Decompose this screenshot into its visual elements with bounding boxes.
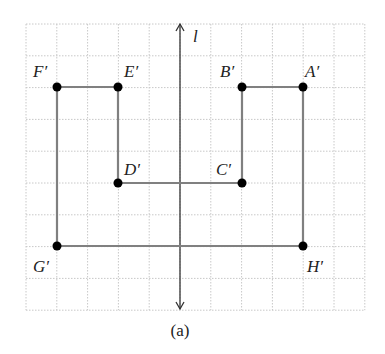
point-label-e-prime: E′ xyxy=(123,62,138,81)
point-e-prime xyxy=(114,83,123,92)
point-f-prime xyxy=(53,83,62,92)
reflection-diagram: l A′B′C′D′E′F′G′H′ (a) xyxy=(0,0,385,354)
point-label-h-prime: H′ xyxy=(306,257,323,276)
axis-label-l: l xyxy=(193,27,198,46)
line-l-axis xyxy=(176,24,184,309)
vertex-points: A′B′C′D′E′F′G′H′ xyxy=(32,62,323,276)
point-g-prime xyxy=(53,242,62,251)
point-label-d-prime: D′ xyxy=(123,160,140,179)
point-a-prime xyxy=(299,83,308,92)
figure-caption: (a) xyxy=(171,321,190,340)
point-label-g-prime: G′ xyxy=(33,257,49,276)
point-label-a-prime: A′ xyxy=(304,62,319,81)
point-h-prime xyxy=(299,242,308,251)
point-label-c-prime: C′ xyxy=(216,160,231,179)
point-b-prime xyxy=(238,83,247,92)
point-label-f-prime: F′ xyxy=(32,62,47,81)
point-c-prime xyxy=(238,179,247,188)
point-d-prime xyxy=(114,179,123,188)
point-label-b-prime: B′ xyxy=(220,62,234,81)
